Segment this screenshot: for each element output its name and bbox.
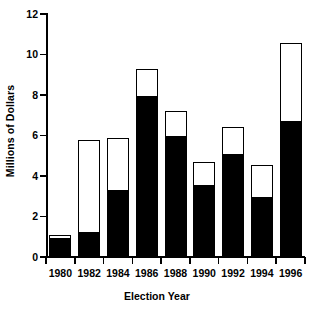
- bar-1980: [49, 235, 71, 257]
- bar-filled-segment: [194, 185, 214, 256]
- x-axis-tick: [189, 257, 191, 264]
- y-axis-tick-label: 0: [0, 252, 38, 263]
- y-axis-tick-label: 2: [0, 211, 38, 222]
- bar-filled-segment: [108, 190, 128, 256]
- bar-chart-figure: Millions of Dollars 024681012 1980198219…: [0, 0, 314, 319]
- x-axis-tick: [132, 257, 134, 264]
- x-axis-tick: [304, 257, 306, 264]
- y-axis-tick-label: 10: [0, 49, 38, 60]
- bar-filled-segment: [50, 238, 70, 256]
- bar-1988: [165, 111, 187, 257]
- x-axis-tick: [247, 257, 249, 264]
- bar-1982: [78, 140, 100, 257]
- bar-1990: [193, 162, 215, 257]
- bar-filled-segment: [166, 136, 186, 256]
- bar-filled-segment: [79, 232, 99, 256]
- bar-1984: [107, 138, 129, 257]
- bar-filled-segment: [252, 197, 272, 256]
- x-axis-tick: [103, 257, 105, 264]
- x-axis-title: Election Year: [0, 290, 314, 302]
- bar-filled-segment: [137, 96, 157, 256]
- bar-1992: [222, 127, 244, 257]
- bar-filled-segment: [281, 121, 301, 256]
- bar-filled-segment: [223, 154, 243, 256]
- y-axis-tick-label: 4: [0, 171, 38, 182]
- x-axis-tick: [45, 257, 47, 264]
- x-axis-tick: [160, 257, 162, 264]
- x-axis-tick-label: 1996: [271, 268, 311, 279]
- y-axis-tick-label: 8: [0, 90, 38, 101]
- y-axis-tick-label: 6: [0, 130, 38, 141]
- y-axis-tick-label: 12: [0, 9, 38, 20]
- x-axis-tick: [218, 257, 220, 264]
- bar-1996: [280, 43, 302, 257]
- x-axis-tick: [74, 257, 76, 264]
- x-axis-tick: [275, 257, 277, 264]
- bar-1986: [136, 69, 158, 257]
- bar-1994: [251, 165, 273, 257]
